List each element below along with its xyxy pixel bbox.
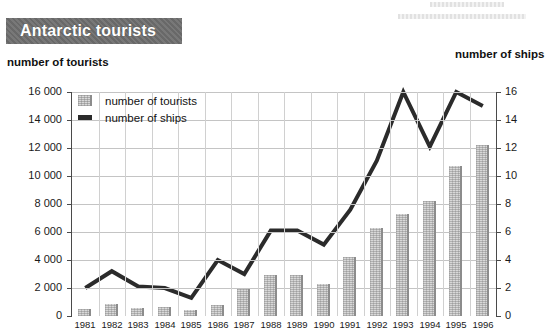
y-axis-right-title: number of ships <box>455 48 544 60</box>
y-axis-right-tick <box>496 288 501 289</box>
y-axis-left-tick-label: 10 000 <box>0 169 62 181</box>
y-axis-right-tick-label: 6 <box>505 225 511 237</box>
vertical-gridline <box>258 92 259 316</box>
bar-tourists <box>158 307 171 316</box>
bar-tourists <box>290 275 303 316</box>
y-axis-right-tick <box>496 204 501 205</box>
bar-tourists <box>449 166 462 316</box>
y-axis-right-tick-label: 4 <box>505 253 511 265</box>
page-title-banner: Antarctic tourists <box>6 18 182 44</box>
y-axis-right-tick <box>496 148 501 149</box>
x-axis-labels: 1981198219831984198519861987198819891990… <box>72 319 496 333</box>
bar-tourists <box>237 289 250 316</box>
y-axis-right-tick-label: 2 <box>505 281 511 293</box>
y-axis-left-tick-label: 16 000 <box>0 85 62 97</box>
bar-tourists <box>105 304 118 316</box>
y-axis-left-tick-label: 6 000 <box>0 225 62 237</box>
bar-tourists <box>476 145 489 317</box>
bar-tourists <box>396 214 409 316</box>
vertical-gridline <box>417 92 418 316</box>
y-axis-right-tick-label: 12 <box>505 141 517 153</box>
x-axis-tick-label: 1982 <box>98 319 126 330</box>
x-axis-tick-label: 1988 <box>257 319 285 330</box>
x-axis-tick-label: 1990 <box>310 319 338 330</box>
x-axis-tick-label: 1983 <box>124 319 152 330</box>
bar-tourists <box>211 305 224 316</box>
y-axis-right-tick-label: 16 <box>505 85 517 97</box>
y-axis-left-tick <box>67 120 72 121</box>
vertical-gridline <box>231 92 232 316</box>
x-axis-tick-label: 1994 <box>416 319 444 330</box>
y-axis-left-tick <box>67 232 72 233</box>
legend-item-ships: number of ships <box>78 109 197 126</box>
x-axis-tick-label: 1992 <box>363 319 391 330</box>
axis-end-cap <box>67 316 72 317</box>
y-axis-right-tick-label: 10 <box>505 169 517 181</box>
bar-tourists <box>264 275 277 316</box>
y-axis-right-tick <box>496 232 501 233</box>
vertical-gridline <box>443 92 444 316</box>
x-axis-tick-label: 1984 <box>151 319 179 330</box>
scan-artifact-subtitle <box>398 14 526 19</box>
x-axis-tick-label: 1995 <box>442 319 470 330</box>
legend-item-tourists: number of tourists <box>78 92 197 109</box>
x-axis-tick-label: 1996 <box>469 319 497 330</box>
y-axis-left-tick-label: 0 <box>0 309 62 321</box>
x-axis-tick-label: 1985 <box>177 319 205 330</box>
axis-end-cap <box>496 316 501 317</box>
y-axis-right-tick-label: 8 <box>505 197 511 209</box>
legend-swatch-line-icon <box>78 115 92 120</box>
bar-tourists <box>343 257 356 317</box>
y-axis-right-tick <box>496 260 501 261</box>
y-axis-left-tick-label: 4 000 <box>0 253 62 265</box>
legend-label-tourists: number of tourists <box>105 95 197 107</box>
vertical-gridline <box>364 92 365 316</box>
page-title: Antarctic tourists <box>6 22 156 40</box>
x-axis-tick-label: 1981 <box>71 319 99 330</box>
chart-legend: number of tourists number of ships <box>78 92 197 126</box>
y-axis-left-tick-label: 12 000 <box>0 141 62 153</box>
y-axis-right-tick-label: 0 <box>505 309 511 321</box>
y-axis-left-title: number of tourists <box>7 56 109 68</box>
axis-end-cap <box>67 92 72 93</box>
y-axis-left-tick <box>67 176 72 177</box>
bar-tourists <box>423 201 436 316</box>
y-axis-right-tick <box>496 120 501 121</box>
bar-tourists <box>317 284 330 316</box>
x-axis-tick-label: 1986 <box>204 319 232 330</box>
x-axis-tick-label: 1993 <box>389 319 417 330</box>
y-axis-left-tick-label: 14 000 <box>0 113 62 125</box>
y-axis-left-tick-label: 2 000 <box>0 281 62 293</box>
y-axis-left-tick <box>67 288 72 289</box>
axis-end-cap <box>496 92 501 93</box>
y-axis-left-tick <box>67 260 72 261</box>
vertical-gridline <box>205 92 206 316</box>
x-axis-tick-label: 1991 <box>336 319 364 330</box>
legend-label-ships: number of ships <box>105 112 187 124</box>
bar-tourists <box>131 308 144 316</box>
x-axis-tick-label: 1989 <box>283 319 311 330</box>
vertical-gridline <box>311 92 312 316</box>
vertical-gridline <box>337 92 338 316</box>
y-axis-left-tick <box>67 148 72 149</box>
y-axis-left-tick-label: 8 000 <box>0 197 62 209</box>
y-axis-right-tick <box>496 176 501 177</box>
bar-tourists <box>78 309 91 316</box>
scan-artifact-top <box>430 2 504 7</box>
legend-swatch-bar-icon <box>78 95 92 106</box>
y-axis-right-tick-label: 14 <box>505 113 517 125</box>
bar-tourists <box>184 310 197 316</box>
vertical-gridline <box>390 92 391 316</box>
x-axis-tick-label: 1987 <box>230 319 258 330</box>
vertical-gridline <box>470 92 471 316</box>
y-axis-left-tick <box>67 204 72 205</box>
vertical-gridline <box>284 92 285 316</box>
bar-tourists <box>370 228 383 316</box>
